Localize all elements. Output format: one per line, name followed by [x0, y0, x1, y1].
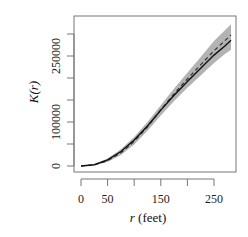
y-tick-label: 0 — [49, 163, 63, 169]
x-axis-title: r (feet) — [130, 210, 166, 225]
plot-frame — [74, 16, 236, 172]
y-tick-label: 250000 — [49, 38, 63, 74]
y-axis-title: K(r) — [26, 81, 41, 104]
k-function-chart: 0100000250000 050150250 K(r) r (feet) — [0, 0, 248, 237]
y-tick-label: 100000 — [49, 104, 63, 140]
x-axis: 050150250 — [78, 179, 223, 206]
x-tick-label: 50 — [102, 192, 114, 206]
x-tick-label: 150 — [152, 192, 170, 206]
x-tick-label: 0 — [78, 192, 84, 206]
envelope-band — [81, 24, 231, 166]
y-axis: 0100000250000 — [49, 34, 74, 169]
x-tick-label: 250 — [205, 192, 223, 206]
